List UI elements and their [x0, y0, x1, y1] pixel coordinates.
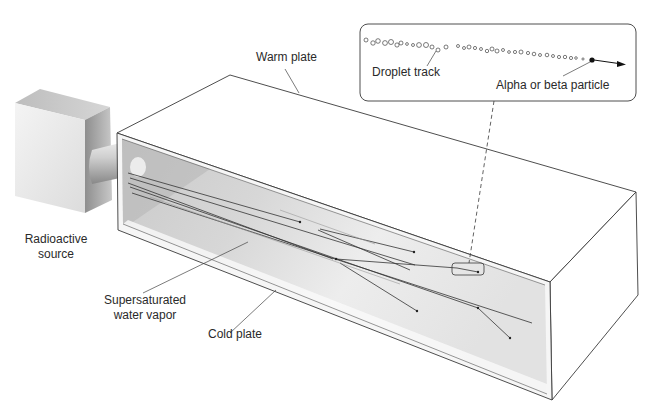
- cold-plate-label: Cold plate: [208, 327, 262, 342]
- radioactive-source-label: Radioactive source: [18, 232, 94, 262]
- vapor-label-line2: water vapor: [90, 308, 200, 323]
- droplet-track-label: Droplet track: [372, 65, 440, 80]
- vapor-label-line1: Supersaturated: [90, 293, 200, 308]
- warm-plate-label: Warm plate: [256, 50, 317, 65]
- source-front-face: [15, 103, 85, 213]
- particle-label: Alpha or beta particle: [496, 78, 609, 93]
- particle-dot: [589, 57, 594, 62]
- radioactive-source: [15, 89, 120, 213]
- warm-plate-leader: [285, 69, 299, 93]
- chamber: [117, 75, 638, 400]
- radioactive-source-label-line2: source: [18, 247, 94, 262]
- vapor-label: Supersaturated water vapor: [90, 293, 200, 323]
- radioactive-source-label-line1: Radioactive: [18, 232, 94, 247]
- cloud-chamber-diagram: [0, 0, 651, 411]
